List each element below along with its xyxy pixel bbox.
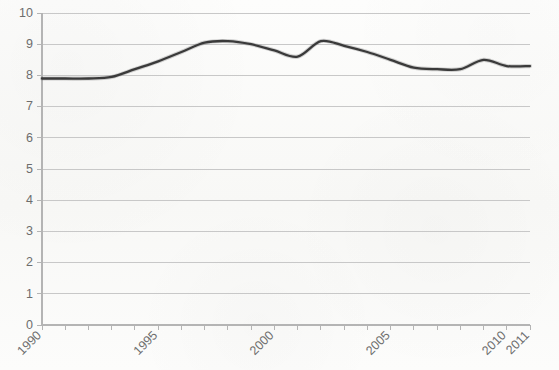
y-tick-label-8: 8 <box>26 68 33 82</box>
x-tick-label-2000: 2000 <box>247 328 277 358</box>
chart-canvas: 012345678910 199019952000200520102011 <box>0 0 559 370</box>
y-tick-label-9: 9 <box>26 37 33 51</box>
series-line-main <box>42 41 530 79</box>
y-tick-label-1: 1 <box>26 287 33 301</box>
data-series-line <box>42 41 530 79</box>
y-tick-label-10: 10 <box>19 6 33 20</box>
y-axis-tick-labels: 012345678910 <box>19 6 33 332</box>
y-tick-label-4: 4 <box>26 193 33 207</box>
y-tick-label-6: 6 <box>26 131 33 145</box>
y-axis-line <box>37 13 42 325</box>
y-tick-label-7: 7 <box>26 99 33 113</box>
x-axis-tick-marks <box>42 325 530 330</box>
x-tick-label-1990: 1990 <box>15 328 45 358</box>
x-tick-label-2005: 2005 <box>363 328 393 358</box>
line-chart: 012345678910 199019952000200520102011 <box>0 0 559 370</box>
x-tick-label-2010: 2010 <box>479 328 509 358</box>
series-line-halo <box>42 41 530 79</box>
y-tick-label-2: 2 <box>26 255 33 269</box>
y-tick-label-5: 5 <box>26 162 33 176</box>
x-tick-label-1995: 1995 <box>131 328 161 358</box>
y-gridlines <box>42 13 530 325</box>
x-axis-tick-labels: 199019952000200520102011 <box>15 328 533 358</box>
x-tick-label-2011: 2011 <box>503 328 532 357</box>
y-tick-label-3: 3 <box>26 224 33 238</box>
